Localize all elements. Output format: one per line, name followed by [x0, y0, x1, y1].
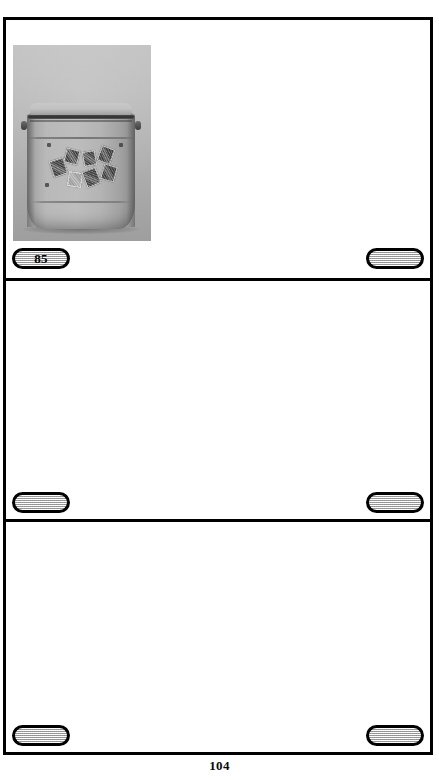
panel-stack: 85	[3, 17, 433, 755]
bag-strap-ring-left	[21, 121, 27, 130]
tag-panel-1-left[interactable]: 85	[12, 248, 70, 269]
page-number: 104	[0, 758, 439, 774]
bag-stud	[47, 143, 51, 147]
tag-panel-2-left[interactable]	[12, 492, 70, 513]
bag-stud	[45, 183, 49, 187]
panel-2	[6, 278, 430, 519]
handbag-photograph	[13, 45, 151, 241]
tag-panel-3-right[interactable]	[366, 725, 424, 746]
tag-panel-3-left[interactable]	[12, 725, 70, 746]
panel-1: 85	[6, 20, 430, 278]
bag-seam-bottom	[31, 201, 131, 203]
tag-panel-1-right[interactable]	[366, 248, 424, 269]
photo-slot	[13, 45, 151, 241]
page-sheet: 85 104	[0, 0, 439, 780]
bag-zipper	[28, 115, 134, 119]
bag-body	[27, 113, 135, 229]
bag-strap-ring-right	[135, 121, 141, 130]
stamp-decoration	[82, 150, 97, 167]
bag-seam-top	[27, 137, 135, 139]
stamp-decoration	[67, 171, 83, 188]
handbag-illustration	[21, 97, 141, 231]
tag-label: 85	[32, 252, 50, 265]
panel-3	[6, 519, 430, 752]
bag-stud	[119, 143, 123, 147]
bag-zipper-seam	[30, 120, 132, 122]
bag-side-right	[127, 115, 135, 227]
bag-side-left	[27, 115, 35, 227]
tag-panel-2-right[interactable]	[366, 492, 424, 513]
